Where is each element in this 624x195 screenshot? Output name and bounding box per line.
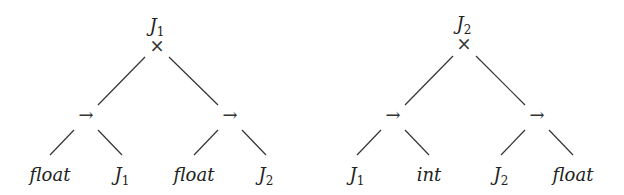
- tree-1-product-operator: ×: [149, 35, 164, 56]
- tree-2-product-operator: ×: [456, 33, 471, 54]
- tree-1-leaf-2: J1: [111, 164, 130, 188]
- tree-2-edge-left: [405, 56, 453, 105]
- tree-2-edge-left-right: [405, 130, 429, 155]
- tree-2-leaf-4: float: [551, 164, 595, 185]
- tree-1-leaf-4: J2: [255, 164, 274, 188]
- tree-1-right-arrow-operator: →: [222, 104, 237, 125]
- tree-1-edge-right-right: [242, 130, 266, 155]
- tree-2-leaf-1: J1: [346, 164, 365, 188]
- tree-1-leaf-1: float: [28, 164, 72, 185]
- tree-1-edge-right-left: [194, 130, 218, 155]
- tree-2-edge-right: [476, 56, 525, 105]
- tree-1-edge-right: [169, 57, 218, 105]
- tree-1: J1 × → → float J1 float J2: [28, 15, 274, 188]
- tree-2-edge-left-left: [357, 130, 381, 155]
- tree-2-edge-right-right: [549, 130, 573, 155]
- tree-1-edge-left-right: [98, 130, 122, 155]
- tree-2-leaf-2: int: [417, 164, 442, 185]
- tree-2-leaf-3: J2: [490, 164, 509, 188]
- tree-2-edge-right-left: [501, 130, 525, 155]
- tree-2-right-arrow-operator: →: [529, 104, 544, 125]
- tree-1-edge-left-left: [50, 130, 74, 155]
- tree-1-leaf-3: float: [172, 164, 216, 185]
- tree-1-left-arrow-operator: →: [78, 104, 93, 125]
- tree-2: J2 × → → J1 int J2 float: [346, 13, 595, 188]
- type-tree-diagram: J1 × → → float J1 float J2 J2 × → → J1 i…: [0, 0, 624, 195]
- tree-2-left-arrow-operator: →: [385, 104, 400, 125]
- tree-1-edge-left: [98, 57, 145, 105]
